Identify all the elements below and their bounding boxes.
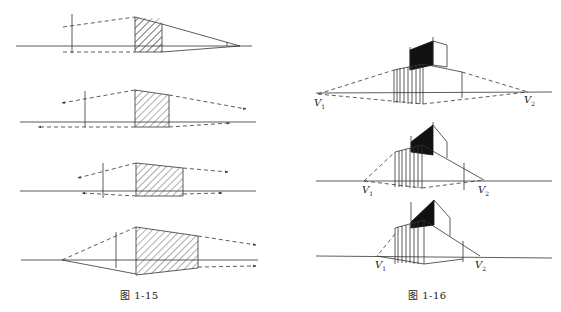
horizon-line xyxy=(316,256,552,258)
vertical-hatch-lines xyxy=(397,64,420,104)
fig15-panel-2 xyxy=(20,90,256,127)
vertical-hatch-lines xyxy=(398,222,418,264)
fig15-panel-3 xyxy=(20,163,256,198)
figure-caption-1-15: 图 1-15 xyxy=(120,287,159,302)
fig16-panel-1: V1 V2 xyxy=(314,37,552,110)
vanishing-point-v1-label: V1 xyxy=(375,259,386,272)
horizon-line xyxy=(316,92,552,93)
figure-canvas: V1 V2 V1 xyxy=(0,0,561,312)
fig15-panel-1 xyxy=(16,14,252,53)
figure-caption-1-16: 图 1-16 xyxy=(408,287,447,302)
fig15-panel-4 xyxy=(21,227,258,275)
vanishing-point-v1-label: V1 xyxy=(314,97,325,110)
fig16-panel-3: V1 V2 xyxy=(316,200,552,272)
vanishing-point-v1-label: V1 xyxy=(362,184,373,197)
vanishing-point-v2-label: V2 xyxy=(524,94,535,107)
fig16-panel-2: V1 V2 xyxy=(316,122,552,197)
figure-1-15 xyxy=(16,14,258,275)
figure-1-16: V1 V2 V1 xyxy=(314,37,552,272)
vanishing-point-v2-label: V2 xyxy=(478,184,489,197)
vanishing-point-v2-label: V2 xyxy=(475,259,486,272)
